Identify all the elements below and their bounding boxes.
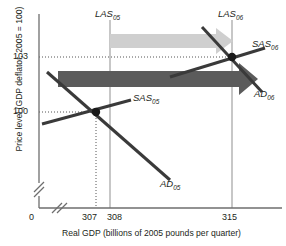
chart-canvas [0, 0, 286, 246]
ad05-label: AD05 [160, 178, 180, 191]
las06-label: LAS06 [218, 8, 243, 21]
x-tick-0: 0 [29, 212, 34, 222]
y-axis-break-icon [34, 182, 44, 197]
x-tick-307: 307 [82, 212, 97, 222]
ad06-label: AD06 [254, 88, 274, 101]
las05-label: LAS05 [95, 8, 120, 21]
sas05-label: SAS05 [133, 92, 159, 105]
equilibrium-2005-dot [92, 108, 100, 116]
y-axis-title: Price level (GDP deflator, 2005 = 100) [14, 4, 24, 154]
as-ad-chart: LAS05 LAS06 SAS06 AD06 SAS05 AD05 103 10… [0, 0, 286, 246]
x-axis-title: Real GDP (billions of 2005 pounds per qu… [62, 228, 241, 238]
sas05-curve [42, 100, 131, 124]
x-tick-308: 308 [107, 212, 122, 222]
aggregate-demand-shift-arrow [58, 63, 258, 95]
x-tick-315: 315 [222, 212, 237, 222]
sas06-label: SAS06 [252, 38, 278, 51]
ad05-curve [47, 72, 170, 180]
equilibrium-2006-dot [228, 53, 236, 61]
